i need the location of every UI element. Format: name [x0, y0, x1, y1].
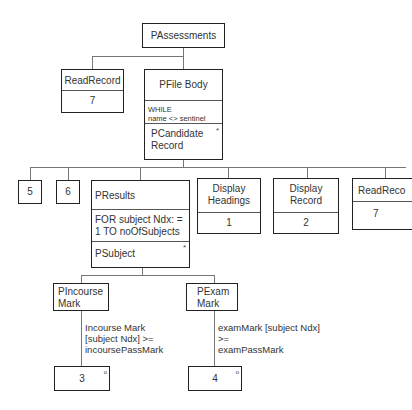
node-op-4: 4 o — [188, 366, 242, 391]
node-label: PAssessments — [151, 30, 216, 41]
label-line: PExam — [197, 286, 237, 298]
condition-line: >= — [218, 333, 320, 344]
label-line: Mark — [197, 298, 237, 310]
operation-number: 3 — [79, 373, 85, 384]
child-component: PCandidate Record * — [145, 123, 222, 158]
node-label: Display Headings — [198, 179, 260, 212]
connector — [30, 167, 406, 168]
connector — [30, 167, 31, 181]
connector — [81, 275, 214, 276]
condition-line: FOR subject Ndx: = — [95, 214, 189, 226]
node-op-5: 5 — [18, 180, 42, 204]
selection-condition: examMark [subject Ndx] >= examPassMark — [218, 322, 320, 355]
node-display-headings: Display Headings 1 — [197, 178, 261, 234]
selection-condition: Incourse Mark [subject Ndx] >= incourseP… — [85, 322, 163, 355]
node-readrecord: ReadRecord 7 — [61, 69, 124, 113]
node-readrecord-2: ReadReco 7 — [352, 178, 412, 230]
child-label: PCandidate — [151, 128, 222, 140]
node-label: ReadRecord — [62, 70, 123, 90]
node-op-3: 3 o — [54, 366, 110, 391]
condition-line: WHILE — [148, 105, 222, 114]
operation-number: 1 — [198, 212, 260, 232]
condition-line: 1 TO noOfSubjects — [95, 226, 189, 238]
condition-line: examPassMark — [218, 344, 320, 355]
label-line: PIncourse — [58, 286, 108, 298]
child-component: PSubject * — [92, 241, 189, 266]
operation-number: 7 — [353, 201, 412, 228]
iteration-marker: * — [183, 244, 186, 252]
condition-line: name <> sentinel — [148, 114, 222, 123]
connector — [68, 167, 69, 181]
connector — [92, 56, 93, 70]
label-line: Display — [274, 183, 338, 195]
label-line: Record — [274, 195, 338, 207]
node-label: Display Record — [274, 179, 338, 212]
connector — [183, 56, 184, 70]
condition-line: incoursePassMark — [85, 344, 163, 355]
node-label: ReadReco — [353, 179, 412, 201]
condition-line: examMark [subject Ndx] — [218, 322, 320, 333]
loop-condition: FOR subject Ndx: = 1 TO noOfSubjects — [92, 209, 189, 241]
node-label: PFile Body — [145, 70, 222, 100]
connector — [92, 56, 184, 57]
node-presults: PResults FOR subject Ndx: = 1 TO noOfSub… — [91, 180, 190, 268]
operation-number: 7 — [62, 90, 123, 112]
node-pfile-body: PFile Body WHILE name <> sentinel PCandi… — [144, 69, 223, 160]
operation-number: 2 — [274, 212, 338, 232]
child-label: PSubject — [95, 248, 135, 259]
condition-line: Incourse Mark — [85, 322, 163, 333]
node-passessments: PAssessments — [142, 23, 225, 48]
loop-condition: WHILE name <> sentinel — [145, 100, 222, 123]
node-display-record: Display Record 2 — [273, 178, 339, 234]
selection-marker: o — [104, 368, 107, 376]
selection-marker: o — [236, 368, 239, 376]
iteration-marker: * — [216, 127, 219, 135]
label-line: Mark — [58, 298, 108, 310]
operation-number: 6 — [65, 186, 71, 197]
node-label: PResults — [92, 181, 189, 209]
label-line: Display — [198, 183, 260, 195]
condition-line: [subject Ndx] >= — [85, 333, 163, 344]
node-pexam-mark: PExam Mark — [186, 283, 238, 311]
operation-number: 5 — [27, 186, 33, 197]
connector — [140, 167, 141, 181]
operation-number: 4 — [212, 373, 218, 384]
node-pincourse-mark: PIncourse Mark — [53, 283, 109, 311]
label-line: Headings — [198, 195, 260, 207]
node-op-6: 6 — [56, 180, 80, 204]
child-label: Record — [151, 140, 222, 152]
